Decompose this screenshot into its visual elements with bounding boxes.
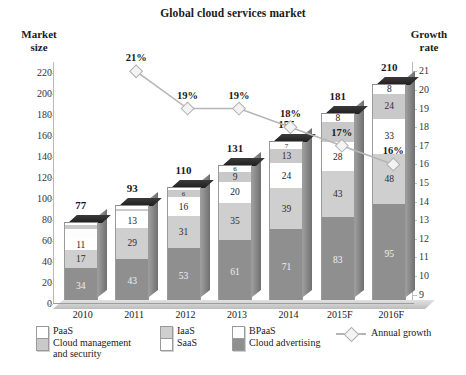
bar-segment-iaas: 48 (372, 154, 406, 205)
y-tick-right: 9 (419, 290, 449, 300)
legend-item-saas[interactable]: SaaS (160, 337, 197, 351)
bar-segment-iaas: 17 (64, 250, 98, 268)
bar-segment-ads: 43 (115, 259, 149, 304)
bar-total-label: 181 (315, 90, 361, 102)
growth-label-2011: 21% (119, 52, 153, 63)
y-tick-right: 10 (419, 271, 449, 281)
bar-total-label: 210 (366, 61, 412, 73)
bar-segment-ads: 95 (372, 204, 406, 304)
bar-total-label: 155 (263, 118, 309, 130)
bar-segment-cms: 9 (218, 172, 252, 181)
growth-label-2013: 19% (222, 90, 256, 101)
bar-front-face: 8284383 (321, 113, 355, 304)
bar-segment-paas: 8 (372, 85, 406, 93)
bar-segment-saas: 20 (218, 182, 252, 203)
y-tick-mark-right (413, 295, 417, 296)
y-tick-mark-left (49, 199, 53, 200)
x-label-2012: 2012 (161, 309, 211, 320)
growth-label-2015F: 17% (325, 127, 359, 138)
bar-side-face (406, 71, 415, 297)
x-label-2010: 2010 (58, 309, 108, 320)
growth-label-2016F: 16% (376, 145, 410, 156)
x-label-2011: 2011 (109, 309, 159, 320)
left-axis-caption: Marketsize (8, 28, 70, 54)
bar-total-label: 131 (212, 142, 258, 154)
bar-2012[interactable]: 6163153 (167, 188, 201, 304)
legend-label: IaaS (177, 325, 195, 336)
x-label-2014: 2014 (263, 309, 313, 320)
y-tick-mark-left (49, 157, 53, 158)
legend-label: SaaS (177, 337, 197, 348)
legend-swatch-cms (36, 338, 49, 351)
bar-2010[interactable]: 111734 (64, 223, 98, 304)
y-tick-left: 180 (12, 110, 52, 120)
bar-segment-iaas: 31 (167, 216, 201, 249)
y-tick-left: 120 (12, 173, 52, 183)
bar-2015F[interactable]: 8284383 (321, 114, 355, 304)
bar-front-face: 6163153 (167, 187, 201, 304)
legend-label: Cloud management and security (53, 337, 131, 359)
legend-label: Cloud advertising (249, 337, 320, 348)
bar-side-face (201, 174, 210, 297)
bar-segment-cms: 24 (372, 94, 406, 119)
bar-total-label: 77 (58, 199, 104, 211)
bar-total-label: 110 (161, 164, 207, 176)
bar-segment-ads: 53 (167, 248, 201, 304)
bar-side-face (252, 152, 261, 297)
growth-label-2014: 18% (273, 108, 307, 119)
bar-segment-iaas: 39 (269, 188, 303, 229)
y-tick-mark-left (49, 136, 53, 137)
bar-front-face: 824334895 (372, 84, 406, 304)
bar-segment-bpaas (64, 229, 98, 238)
legend-label: PaaS (53, 325, 73, 336)
bar-segment-saas: 28 (321, 142, 355, 171)
bar-segment-ads: 71 (269, 229, 303, 304)
y-tick-mark-left (49, 241, 53, 242)
y-tick-right: 12 (419, 234, 449, 244)
y-tick-left: 100 (12, 194, 52, 204)
y-tick-mark-left (49, 220, 53, 221)
bar-front-face: 713243971 (269, 141, 303, 304)
bar-2011[interactable]: 132943 (115, 206, 149, 304)
growth-label-2012: 19% (171, 90, 205, 101)
y-tick-right: 14 (419, 197, 449, 207)
y-tick-left: 200 (12, 89, 52, 99)
bar-segment-ads: 34 (64, 268, 98, 304)
legend-item-ads[interactable]: Cloud advertising (232, 337, 320, 351)
y-tick-mark-left (49, 115, 53, 116)
bar-segment-paas: 7 (269, 142, 303, 149)
x-label-2015F: 2015F (315, 309, 365, 320)
y-tick-left: 40 (12, 257, 52, 267)
legend: PaaSCloud management and securityIaaSSaa… (0, 325, 466, 369)
bar-2013[interactable]: 69203561 (218, 166, 252, 304)
bar-segment-iaas: 29 (115, 228, 149, 259)
legend-item-cms[interactable]: Cloud management and security (36, 337, 131, 359)
bar-2014[interactable]: 713243971 (269, 142, 303, 304)
chart-floor-edge (53, 303, 414, 304)
y-tick-mark-left (49, 94, 53, 95)
x-label-2016F: 2016F (366, 309, 416, 320)
bar-front-face: 132943 (115, 205, 149, 304)
y-tick-mark-left (49, 262, 53, 263)
y-tick-mark-left (49, 73, 53, 74)
bar-segment-paas: 8 (321, 114, 355, 122)
y-tick-right: 19 (419, 104, 449, 114)
y-tick-right: 15 (419, 178, 449, 188)
bar-segment-ads: 61 (218, 240, 252, 304)
bar-segment-iaas: 43 (321, 171, 355, 216)
bar-total-label: 93 (109, 182, 155, 194)
chart-container: Global cloud services market Marketsize … (0, 0, 466, 375)
page-title: Global cloud services market (0, 7, 466, 19)
legend-label: BPaaS (249, 325, 276, 336)
bar-side-face (149, 192, 158, 297)
x-label-2013: 2013 (212, 309, 262, 320)
y-tick-right: 21 (419, 66, 449, 76)
y-tick-mark-left (49, 304, 53, 305)
y-tick-right: 16 (419, 159, 449, 169)
y-tick-left: 80 (12, 215, 52, 225)
legend-swatch-saas (160, 338, 173, 351)
bar-segment-saas: 24 (269, 163, 303, 188)
bar-2016F[interactable]: 824334895 (372, 85, 406, 304)
legend-item-growth[interactable]: Annual growth (336, 327, 431, 339)
y-tick-right: 11 (419, 252, 449, 262)
